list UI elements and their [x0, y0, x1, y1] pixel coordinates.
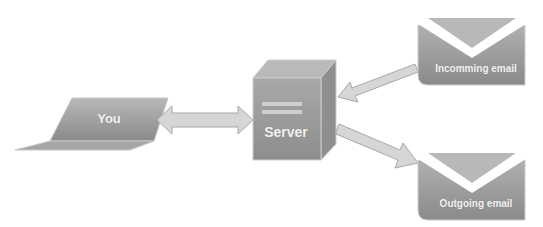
- server-front: [253, 78, 321, 160]
- server-slot-1: [262, 102, 302, 106]
- envelope-node-incoming: [418, 18, 526, 85]
- arrow-server-outgoing: [336, 124, 418, 168]
- server-slot-2: [262, 110, 302, 114]
- server-node: [253, 60, 336, 160]
- laptop-base: [15, 141, 154, 150]
- server-label: Server: [256, 124, 316, 140]
- you-label: You: [78, 111, 140, 126]
- outgoing-email-label: Outgoing email: [420, 198, 532, 209]
- server-side: [321, 60, 336, 160]
- arrow-incoming-server: [338, 64, 418, 102]
- envelope-node-outgoing: [418, 153, 526, 220]
- arrow-you-server: [157, 106, 253, 134]
- incoming-email-label: Incomming email: [420, 63, 532, 74]
